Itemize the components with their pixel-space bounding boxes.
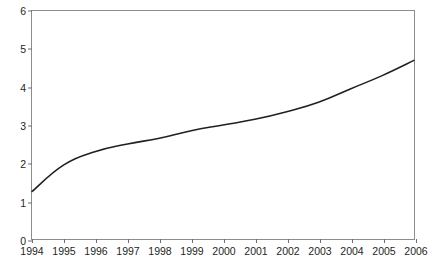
x-tick-label: 1995	[52, 246, 75, 257]
x-tick-label: 2005	[372, 246, 395, 257]
x-tick-label: 2001	[244, 246, 267, 257]
x-tick-label: 2004	[340, 246, 363, 257]
x-tick-mark	[416, 239, 417, 243]
y-tick-label: 5	[20, 44, 26, 55]
y-tick-label: 2	[20, 159, 26, 170]
y-tick-label: 1	[20, 197, 26, 208]
x-tick-label: 1998	[148, 246, 171, 257]
x-tick-mark	[160, 239, 161, 243]
x-tick-label: 1999	[180, 246, 203, 257]
data-series-line	[32, 11, 414, 239]
x-tick-label: 2006	[404, 246, 427, 257]
y-tick-label: 6	[20, 6, 26, 17]
x-tick-mark	[352, 239, 353, 243]
x-tick-mark	[224, 239, 225, 243]
x-tick-mark	[128, 239, 129, 243]
y-tick-label: 4	[20, 82, 26, 93]
x-tick-label: 1996	[84, 246, 107, 257]
x-tick-mark	[192, 239, 193, 243]
x-tick-label: 1997	[116, 246, 139, 257]
y-tick-label: 3	[20, 121, 26, 132]
x-tick-mark	[288, 239, 289, 243]
x-tick-mark	[320, 239, 321, 243]
x-tick-mark	[32, 239, 33, 243]
plot-area: 0123456 19941995199619971998199920002001…	[31, 10, 415, 240]
x-tick-mark	[96, 239, 97, 243]
x-tick-label: 2003	[308, 246, 331, 257]
x-tick-label: 2002	[276, 246, 299, 257]
series-path	[32, 60, 414, 191]
x-tick-label: 1994	[20, 246, 43, 257]
x-tick-mark	[64, 239, 65, 243]
x-tick-mark	[384, 239, 385, 243]
x-tick-label: 2000	[212, 246, 235, 257]
x-tick-mark	[256, 239, 257, 243]
